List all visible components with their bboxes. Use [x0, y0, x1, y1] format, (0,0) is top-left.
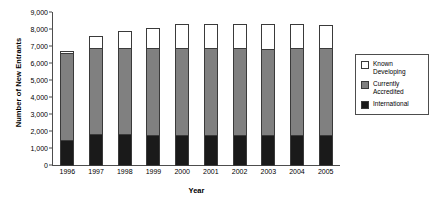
- bar-segment-known-developing[interactable]: [146, 28, 160, 49]
- bar-segment-international[interactable]: [319, 135, 333, 166]
- bar-segment-international[interactable]: [233, 135, 247, 166]
- bar-segment-currently-accredited[interactable]: [233, 48, 247, 136]
- x-tick-label: 2001: [197, 168, 226, 175]
- chart-figure: Number of New Entrants 01,0002,0003,0004…: [0, 0, 434, 206]
- bar-slot: [82, 12, 111, 165]
- x-tick-label: 2005: [311, 168, 340, 175]
- bar-segment-known-developing[interactable]: [233, 24, 247, 49]
- y-tick-mark: [49, 148, 52, 149]
- stacked-bar[interactable]: [290, 24, 304, 165]
- y-tick-mark: [49, 131, 52, 132]
- x-tick-label: 1999: [139, 168, 168, 175]
- x-tick-label: 2004: [283, 168, 312, 175]
- bar-segment-international[interactable]: [60, 140, 74, 166]
- legend-swatch-icon: [361, 81, 369, 89]
- y-tick-mark: [49, 165, 52, 166]
- stacked-bar[interactable]: [146, 28, 160, 165]
- bar-slot: [139, 12, 168, 165]
- bar-slot: [110, 12, 139, 165]
- legend-label: International: [373, 100, 409, 108]
- bar-segment-international[interactable]: [261, 135, 275, 166]
- x-tick-label: 1998: [110, 168, 139, 175]
- stacked-bar[interactable]: [233, 24, 247, 165]
- bar-segment-international[interactable]: [146, 135, 160, 166]
- stacked-bar[interactable]: [204, 24, 218, 165]
- bar-segment-known-developing[interactable]: [204, 24, 218, 49]
- bar-segment-international[interactable]: [118, 134, 132, 166]
- bar-segment-currently-accredited[interactable]: [319, 48, 333, 136]
- stacked-bar[interactable]: [175, 24, 189, 165]
- bar-slot: [283, 12, 312, 165]
- legend-label: Known Developing: [373, 60, 406, 75]
- chart-title: [70, 0, 320, 1]
- bar-segment-international[interactable]: [290, 135, 304, 166]
- bar-segment-known-developing[interactable]: [290, 24, 304, 49]
- bar-segment-international[interactable]: [204, 135, 218, 166]
- y-tick-mark: [49, 46, 52, 47]
- legend-item[interactable]: International: [361, 100, 424, 109]
- bar-segment-known-developing[interactable]: [261, 24, 275, 50]
- y-axis-title: Number of New Entrants: [14, 13, 23, 153]
- stacked-bar[interactable]: [261, 24, 275, 165]
- bar-segment-known-developing[interactable]: [118, 31, 132, 49]
- y-tick-mark: [49, 97, 52, 98]
- bar-segment-currently-accredited[interactable]: [175, 48, 189, 136]
- legend-item[interactable]: Known Developing: [361, 60, 424, 75]
- y-tick-mark: [49, 80, 52, 81]
- x-tick-label: 2002: [225, 168, 254, 175]
- bar-segment-known-developing[interactable]: [319, 25, 333, 49]
- bar-segment-currently-accredited[interactable]: [146, 48, 160, 136]
- bar-slot: [53, 12, 82, 165]
- bar-slot: [225, 12, 254, 165]
- bar-segment-currently-accredited[interactable]: [290, 48, 304, 136]
- bar-segment-international[interactable]: [175, 135, 189, 166]
- stacked-bar[interactable]: [319, 25, 333, 165]
- bar-slot: [197, 12, 226, 165]
- x-axis-ticks: 1996199719981999200020012002200320042005: [53, 168, 340, 175]
- stacked-bar[interactable]: [60, 51, 74, 165]
- legend-swatch-icon: [361, 101, 369, 109]
- x-axis-title: Year: [53, 186, 340, 195]
- x-tick-label: 1997: [82, 168, 111, 175]
- bar-slot: [254, 12, 283, 165]
- legend-label: Currently Accredited: [373, 80, 404, 95]
- chart-legend: Known DevelopingCurrently AccreditedInte…: [355, 54, 429, 115]
- x-tick-label: 2003: [254, 168, 283, 175]
- plot-area: 01,0002,0003,0004,0005,0006,0007,0008,00…: [52, 12, 340, 165]
- bar-segment-known-developing[interactable]: [175, 24, 189, 49]
- y-tick-mark: [49, 114, 52, 115]
- bar-group: [53, 12, 340, 165]
- bar-segment-currently-accredited[interactable]: [118, 48, 132, 135]
- bar-segment-currently-accredited[interactable]: [261, 49, 275, 136]
- y-tick-mark: [49, 12, 52, 13]
- stacked-bar[interactable]: [118, 31, 132, 165]
- x-tick-label: 2000: [168, 168, 197, 175]
- y-tick-mark: [49, 29, 52, 30]
- bar-segment-currently-accredited[interactable]: [89, 48, 103, 135]
- bar-slot: [311, 12, 340, 165]
- legend-swatch-icon: [361, 61, 369, 69]
- bar-segment-currently-accredited[interactable]: [204, 48, 218, 136]
- bar-segment-currently-accredited[interactable]: [60, 53, 74, 141]
- y-tick-mark: [49, 63, 52, 64]
- x-tick-label: 1996: [53, 168, 82, 175]
- stacked-bar[interactable]: [89, 36, 103, 165]
- legend-item[interactable]: Currently Accredited: [361, 80, 424, 95]
- bar-slot: [168, 12, 197, 165]
- bar-segment-international[interactable]: [89, 134, 103, 166]
